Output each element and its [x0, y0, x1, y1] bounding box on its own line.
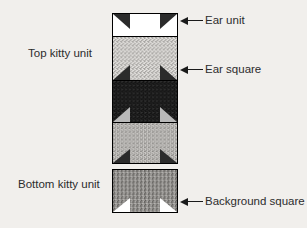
corner-triangle-bottom-left	[113, 198, 130, 212]
corner-triangle-bottom-left	[113, 65, 130, 80]
square-dark-body	[112, 80, 178, 123]
corner-triangle-top-left	[113, 14, 130, 29]
square-body	[112, 122, 178, 164]
corner-triangle-bottom-right	[160, 149, 177, 163]
label-top-kitty-unit: Top kitty unit	[28, 47, 92, 59]
corner-triangle-bottom-right	[160, 65, 177, 80]
corner-triangle-bottom-right	[160, 107, 177, 122]
label-ear-unit: Ear unit	[205, 14, 245, 26]
label-bottom-kitty-unit: Bottom kitty unit	[18, 178, 100, 190]
corner-triangle-bottom-left	[113, 149, 130, 163]
square-background-square	[112, 169, 178, 213]
corner-triangle-bottom-left	[113, 107, 130, 122]
square-ear-square	[112, 36, 178, 81]
diagram-canvas: Top kitty unit Bottom kitty unit Ear uni…	[0, 0, 307, 228]
square-ear-unit	[112, 13, 178, 37]
corner-triangle-top-right	[160, 14, 177, 29]
arrow-ear-unit	[187, 20, 203, 21]
arrow-ear-square	[187, 69, 203, 70]
arrow-background-square	[187, 201, 203, 202]
corner-triangle-bottom-right	[160, 198, 177, 212]
label-ear-square: Ear square	[205, 63, 261, 75]
label-background-square: Background square	[205, 195, 305, 207]
